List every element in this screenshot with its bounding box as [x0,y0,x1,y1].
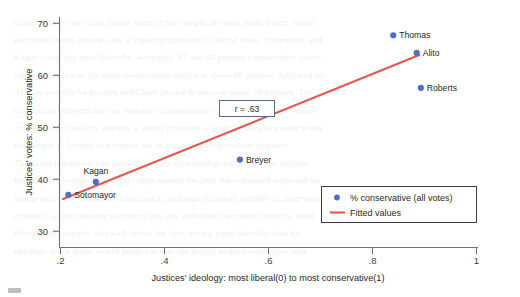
x-tick-label-0.4: .4 [161,255,169,266]
correlation-annotation: r = .63 [220,101,275,117]
x-tick-label-0.2: .2 [57,255,65,266]
point-label-breyer: Breyer [246,155,271,165]
legend-label-conservative: % conservative (all votes) [350,193,453,203]
data-point-roberts [418,85,424,91]
point-label-sotomayor: Sotomayor [74,190,116,200]
data-point-sotomayor [65,192,71,198]
scatter-chart-figure: 70 60 50 40 30 .2 .4 .6 .8 1 Justices' i… [0,0,520,297]
y-tick-label-70: 70 [37,18,48,29]
y-axis-title: Justices' votes: % conservative [24,69,34,196]
scan-artifact [8,288,21,293]
legend-label-fitted: Fitted values [350,208,402,218]
chart-legend: % conservative (all votes) Fitted values [322,187,477,223]
annotation-label: r = .63 [235,104,260,114]
legend-marker-dot-icon [334,195,340,201]
y-axis-ticks: 70 60 50 40 30 [37,18,59,237]
y-tick-label-30: 30 [37,226,48,237]
x-tick-label-0.8: .8 [369,255,377,266]
point-label-alito: Alito [423,48,440,58]
y-tick-label-60: 60 [37,70,48,81]
data-point-alito [414,50,420,56]
y-tick-label-50: 50 [37,122,48,133]
x-axis-title: Justices' ideology: most liberal(0) to m… [151,273,384,283]
point-label-kagan: Kagan [83,166,108,176]
y-tick-label-40: 40 [37,174,48,185]
point-label-thomas: Thomas [399,30,430,40]
chart-svg: 70 60 50 40 30 .2 .4 .6 .8 1 Justices' i… [0,0,520,297]
data-point-breyer [237,156,243,162]
x-axis-ticks: .2 .4 .6 .8 1 [57,248,480,267]
point-label-roberts: Roberts [427,83,457,93]
x-tick-label-1: 1 [474,255,479,266]
fitted-values-line [63,55,419,199]
data-point-thomas [390,32,396,38]
x-tick-label-0.6: .6 [265,255,273,266]
data-point-kagan [93,179,99,185]
